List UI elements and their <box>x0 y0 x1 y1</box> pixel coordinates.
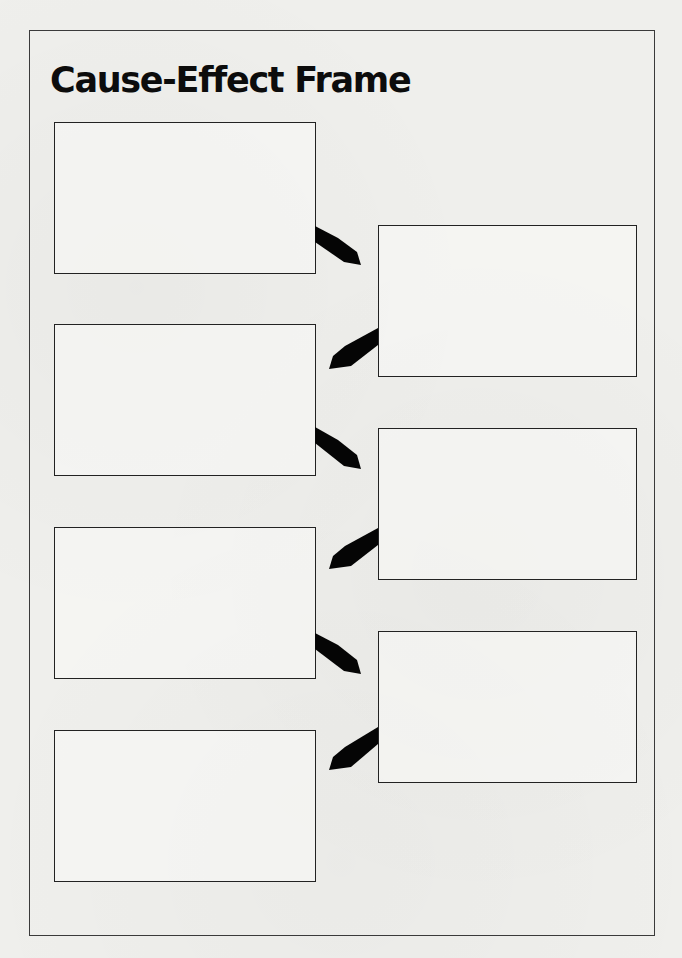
cause-box-2-text[interactable] <box>61 331 309 469</box>
cause-box-2[interactable] <box>54 324 316 476</box>
cause-box-4-text[interactable] <box>61 737 309 875</box>
cause-box-3-text[interactable] <box>61 534 309 672</box>
effect-box-1[interactable] <box>378 225 637 377</box>
cause-box-3[interactable] <box>54 527 316 679</box>
cause-box-4[interactable] <box>54 730 316 882</box>
cause-box-1[interactable] <box>54 122 316 274</box>
effect-box-3-text[interactable] <box>385 638 630 776</box>
effect-box-1-text[interactable] <box>385 232 630 370</box>
cause-box-1-text[interactable] <box>61 129 309 267</box>
effect-box-3[interactable] <box>378 631 637 783</box>
effect-box-2-text[interactable] <box>385 435 630 573</box>
page-title: Cause-Effect Frame <box>50 63 410 98</box>
effect-box-2[interactable] <box>378 428 637 580</box>
